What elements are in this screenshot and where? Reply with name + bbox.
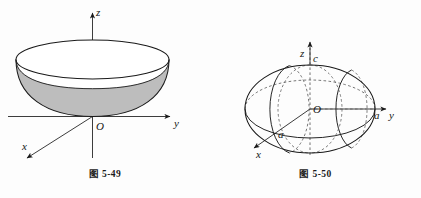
x-axis-label: x — [255, 148, 261, 160]
y-axis-label: y — [388, 109, 394, 121]
x-semi-axis-label: a — [278, 128, 284, 140]
y-axis-fig50: y a — [310, 109, 394, 121]
figure-paraboloid: y z x — [0, 0, 210, 198]
figure-sheet: y z x — [0, 0, 421, 198]
meridian-xz-back — [290, 66, 310, 154]
y-axis-label: y — [173, 117, 179, 129]
figure-caption-5-50: 图 5-50 — [210, 166, 421, 180]
figure-caption-5-49: 图 5-49 — [0, 166, 210, 180]
bowl-interior-upper — [16, 40, 169, 88]
x-axis-label: x — [21, 140, 27, 152]
z-semi-axis-label: c — [313, 52, 318, 64]
x-axis-fig49: x — [21, 117, 93, 159]
figure-ellipsoid: y a z c x — [210, 0, 421, 198]
z-axis-label: z — [95, 6, 101, 18]
z-axis-label: z — [299, 47, 305, 59]
origin-label-fig50: O — [313, 103, 321, 115]
origin-label-fig49: O — [96, 120, 104, 132]
y-axis-fig49: y — [8, 117, 179, 130]
paraboloid-body — [16, 40, 169, 117]
